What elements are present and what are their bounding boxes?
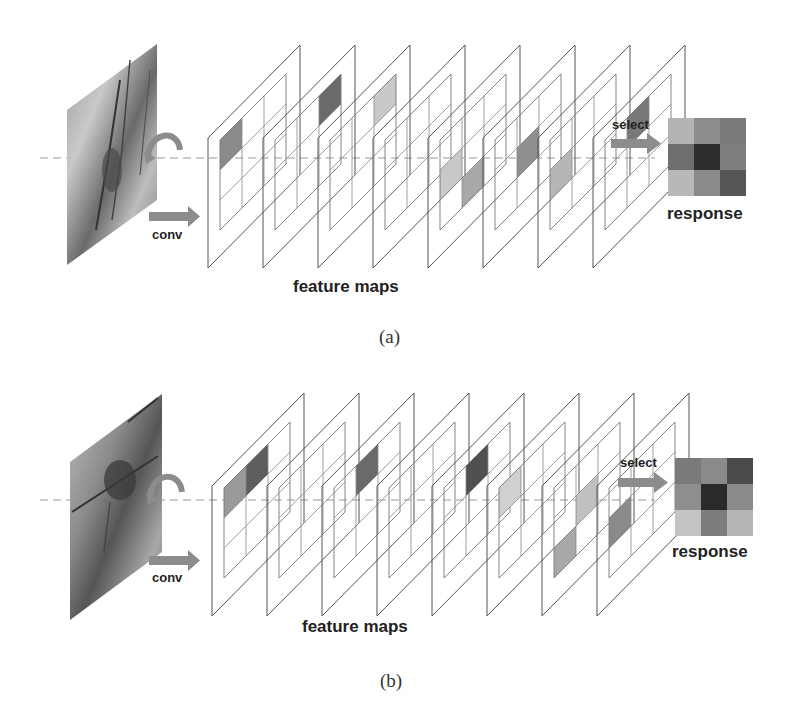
response-label: response — [667, 204, 743, 223]
heatmap-cell — [675, 458, 701, 484]
heatmap-cell — [701, 510, 727, 536]
figure-panel-a: conv feature maps select response (a) — [0, 0, 788, 360]
heatmap-cell — [675, 484, 701, 510]
response-heatmap — [675, 458, 753, 536]
heatmap-cell — [720, 144, 746, 170]
feature-map — [538, 45, 630, 268]
feature-map — [483, 45, 575, 268]
panel-caption: (a) — [379, 326, 400, 348]
conv-label: conv — [152, 570, 183, 585]
conv-arrow-icon — [149, 206, 200, 227]
conv-label: conv — [152, 227, 183, 242]
highlighted-cell — [246, 444, 268, 496]
feature-maps-stack — [212, 393, 689, 616]
heatmap-cell — [668, 118, 694, 144]
highlighted-cell — [554, 526, 576, 578]
feature-map — [487, 393, 579, 616]
feature-map — [377, 393, 469, 616]
feature-map — [208, 45, 300, 268]
highlighted-cell — [224, 466, 246, 518]
heatmap-cell — [701, 458, 727, 484]
highlighted-cell — [220, 118, 242, 170]
heatmap-cell — [720, 118, 746, 144]
feature-map — [212, 393, 304, 616]
input-image — [70, 394, 162, 620]
heatmap-cell — [694, 118, 720, 144]
panel-a-diagram: conv feature maps select response (a) — [0, 0, 788, 360]
feature-map — [373, 45, 465, 268]
select-arrow-icon — [618, 472, 668, 493]
feature-maps-stack — [208, 45, 685, 268]
response-heatmap — [668, 118, 746, 196]
feature-map — [542, 393, 634, 616]
heatmap-cell — [668, 170, 694, 196]
figure-panel-b: conv feature maps select response (b) — [0, 362, 788, 727]
feature-map — [322, 393, 414, 616]
feature-map — [267, 393, 359, 616]
feature-maps-label: feature maps — [293, 277, 399, 296]
heatmap-cell — [694, 144, 720, 170]
select-label: select — [620, 455, 658, 470]
response-label: response — [672, 542, 748, 561]
heatmap-cell — [727, 484, 753, 510]
feature-maps-label: feature maps — [302, 617, 408, 636]
heatmap-cell — [668, 144, 694, 170]
select-label: select — [612, 117, 650, 132]
panel-b-diagram: conv feature maps select response (b) — [0, 362, 788, 727]
heatmap-cell — [727, 458, 753, 484]
panel-caption: (b) — [380, 670, 402, 692]
heatmap-cell — [675, 510, 701, 536]
feature-map — [263, 45, 355, 268]
heatmap-cell — [694, 170, 720, 196]
heatmap-cell — [701, 484, 727, 510]
input-image — [67, 44, 157, 265]
feature-map — [318, 45, 410, 268]
heatmap-cell — [727, 510, 753, 536]
heatmap-cell — [720, 170, 746, 196]
feature-map — [428, 45, 520, 268]
